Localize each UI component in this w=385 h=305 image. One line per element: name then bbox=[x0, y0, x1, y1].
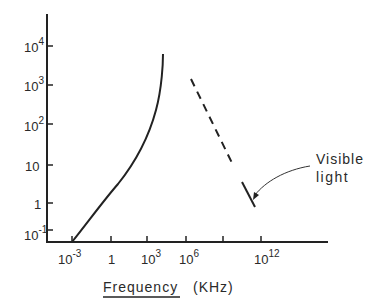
svg-text:1012: 1012 bbox=[254, 248, 280, 267]
y-tick-labels: 104 103 102 10 1 10-1 bbox=[24, 36, 48, 243]
annotation-visible-light: Visible light bbox=[316, 151, 364, 185]
svg-text:1: 1 bbox=[108, 252, 115, 267]
svg-text:(KHz): (KHz) bbox=[193, 279, 234, 295]
series-high-frequency-dashed bbox=[191, 79, 233, 165]
x-tick-labels: 10-3 1 103 106 1012 bbox=[58, 248, 280, 267]
svg-text:light: light bbox=[316, 169, 349, 185]
svg-text:103: 103 bbox=[141, 248, 161, 267]
svg-text:Visible: Visible bbox=[316, 151, 364, 167]
chart: 104 103 102 10 1 10-1 10-3 1 103 106 101… bbox=[0, 0, 385, 305]
svg-text:102: 102 bbox=[24, 115, 44, 134]
x-axis-title: Frequency (KHz) bbox=[103, 279, 234, 297]
annotation-arrow bbox=[255, 166, 310, 195]
svg-text:106: 106 bbox=[179, 248, 199, 267]
series-low-frequency-curve bbox=[72, 54, 163, 242]
series-visible-light bbox=[242, 182, 255, 207]
svg-text:10: 10 bbox=[25, 159, 39, 174]
svg-text:Frequency: Frequency bbox=[103, 279, 178, 295]
svg-text:1: 1 bbox=[34, 197, 41, 212]
svg-text:10-3: 10-3 bbox=[58, 248, 82, 267]
svg-text:104: 104 bbox=[24, 36, 44, 55]
svg-text:103: 103 bbox=[24, 75, 44, 94]
svg-text:10-1: 10-1 bbox=[24, 224, 48, 243]
